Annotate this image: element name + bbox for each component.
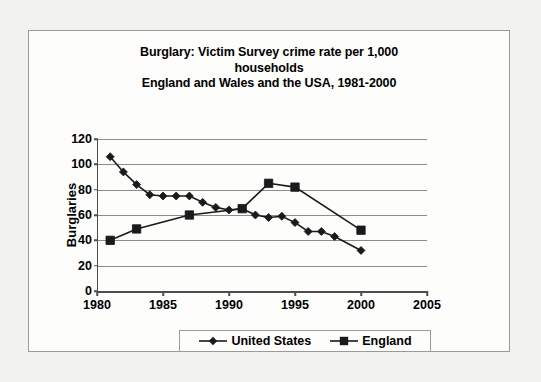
x-tick-2005 bbox=[426, 291, 428, 296]
series-line bbox=[110, 157, 361, 251]
data-point-1987-60 bbox=[185, 211, 193, 219]
chart-title: Burglary: Victim Survey crime rate per 1… bbox=[29, 45, 509, 92]
data-point-2000-32 bbox=[357, 246, 365, 254]
x-tick-label-1995: 1995 bbox=[281, 298, 309, 312]
data-point-1993-58 bbox=[265, 214, 273, 222]
x-tick-1985 bbox=[162, 291, 164, 296]
data-point-1989-66 bbox=[212, 203, 220, 211]
data-point-2000-48 bbox=[357, 226, 365, 234]
x-tick-1980 bbox=[96, 291, 98, 296]
data-point-1998-43 bbox=[331, 233, 339, 241]
x-tick-label-1990: 1990 bbox=[215, 298, 243, 312]
chart-title-line-2: households bbox=[29, 61, 509, 77]
data-point-1985-75 bbox=[159, 192, 167, 200]
y-tick-label-60: 60 bbox=[78, 208, 92, 222]
data-point-1993-85 bbox=[264, 179, 272, 187]
series-layer bbox=[97, 139, 427, 291]
x-tick-label-2000: 2000 bbox=[347, 298, 375, 312]
legend-label: England bbox=[362, 334, 411, 348]
y-tick-label-120: 120 bbox=[71, 132, 92, 146]
x-tick-label-1980: 1980 bbox=[83, 298, 111, 312]
y-tick-label-100: 100 bbox=[71, 157, 92, 171]
x-tick-label-1985: 1985 bbox=[149, 298, 177, 312]
x-tick-1990 bbox=[228, 291, 230, 296]
gridline-y-0 bbox=[98, 291, 427, 293]
legend-entry-united-states[interactable]: United States bbox=[198, 334, 311, 348]
x-tick-label-2005: 2005 bbox=[413, 298, 441, 312]
y-tick-label-80: 80 bbox=[78, 183, 92, 197]
y-axis-title: Burglaries bbox=[64, 183, 79, 247]
chart-title-line-3: England and Wales and the USA, 1981-2000 bbox=[29, 76, 509, 92]
series-england bbox=[106, 179, 365, 244]
x-tick-2000 bbox=[360, 291, 362, 296]
square-marker-icon bbox=[329, 335, 359, 347]
y-tick-label-20: 20 bbox=[78, 259, 92, 273]
plot-wrap: Burglaries 020406080100120 1980198519901… bbox=[97, 139, 427, 291]
data-point-1992-60 bbox=[251, 211, 259, 219]
data-point-1987-75 bbox=[185, 192, 193, 200]
chart-legend: United StatesEngland bbox=[179, 330, 431, 352]
diamond-marker-icon bbox=[198, 335, 228, 347]
legend-label: United States bbox=[231, 334, 311, 348]
x-tick-1995 bbox=[294, 291, 296, 296]
chart-title-line-1: Burglary: Victim Survey crime rate per 1… bbox=[29, 45, 509, 61]
chart-frame: Burglary: Victim Survey crime rate per 1… bbox=[28, 30, 510, 352]
data-point-1986-75 bbox=[172, 192, 180, 200]
legend-entry-england[interactable]: England bbox=[329, 334, 411, 348]
y-tick-label-40: 40 bbox=[78, 233, 92, 247]
data-point-1981-40 bbox=[106, 236, 114, 244]
data-point-1991-65 bbox=[238, 204, 246, 212]
y-tick-label-0: 0 bbox=[85, 284, 92, 298]
data-point-1994-59 bbox=[278, 212, 286, 220]
data-point-1995-82 bbox=[291, 183, 299, 191]
series-united-states bbox=[106, 153, 365, 255]
data-point-1988-70 bbox=[199, 198, 207, 206]
data-point-1983-49 bbox=[132, 225, 140, 233]
data-point-1997-47 bbox=[317, 227, 325, 235]
